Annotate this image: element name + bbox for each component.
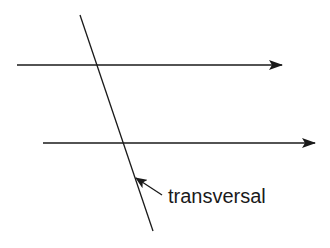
transversal-label: transversal: [168, 185, 266, 207]
diagram-canvas: transversal: [0, 0, 330, 248]
transversal-line: [80, 15, 153, 231]
